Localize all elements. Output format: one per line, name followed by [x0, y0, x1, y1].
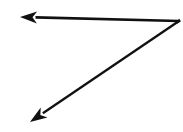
- angle-figure-svg: [0, 0, 183, 132]
- angle-figure: 5.: [0, 0, 183, 132]
